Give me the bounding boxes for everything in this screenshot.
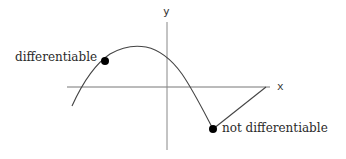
y-axis-label: y	[163, 6, 170, 17]
x-axis-label: x	[277, 81, 284, 92]
not-differentiable-label: not differentiable	[222, 122, 328, 134]
function-graph	[0, 0, 346, 159]
non-differentiable-point	[209, 125, 217, 133]
differentiable-point	[101, 57, 109, 65]
differentiable-label: differentiable	[15, 51, 97, 63]
